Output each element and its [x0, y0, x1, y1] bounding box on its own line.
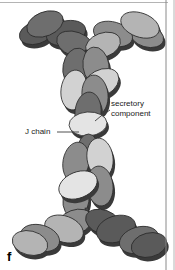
figure-panel: secretory component J chain f: [0, 0, 175, 270]
secretory-component-label: secretory component: [111, 99, 151, 118]
secretory-component-label-line2: component: [111, 109, 151, 119]
figure-panel-letter: f: [7, 249, 11, 264]
j-chain-label: J chain: [25, 127, 50, 137]
secretory-component-label-line1: secretory: [111, 99, 151, 109]
